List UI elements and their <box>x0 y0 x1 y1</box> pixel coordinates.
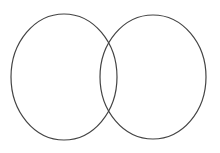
venn-diagram <box>0 0 220 153</box>
left-set-ellipse <box>11 14 117 140</box>
right-set-ellipse <box>100 15 206 139</box>
